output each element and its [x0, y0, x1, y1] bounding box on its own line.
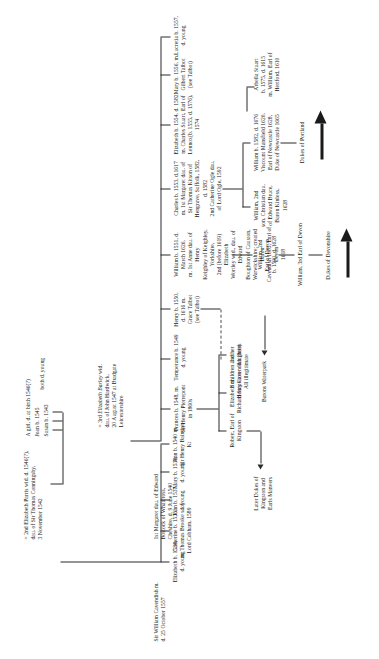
node-mary-1556: Mary b. 1556, m. Gilbert Talbot (see Tal…	[172, 51, 193, 97]
stem-william1551-down	[232, 254, 252, 255]
dashed-illegitimate-link	[220, 309, 221, 359]
stem-henry-down	[200, 308, 220, 309]
drop-mary-1538	[160, 471, 169, 472]
node-dukes-portland: Dukes of Portland	[298, 103, 305, 181]
node-susan-1543: Susan b. 1543	[42, 392, 49, 436]
gen1-bar-first	[160, 444, 161, 562]
stem-william1582-down	[280, 142, 296, 143]
drop-three-daughters	[218, 354, 226, 355]
node-dukes-devonshire: Dukes of Devonshire	[324, 203, 331, 307]
node-joan-1545: Joan b. 1545	[33, 392, 40, 436]
node-frances-1548: Frances b. 1548, m. Sir Henry Pierrepont…	[172, 379, 193, 437]
stem-dukes-portland-arrow	[320, 123, 323, 159]
drop-girl-1546	[52, 411, 62, 412]
stem-william2nd-down	[278, 254, 294, 255]
drop-john-1537	[160, 499, 169, 500]
drop-joan-1545	[52, 420, 62, 421]
root-trunk	[60, 561, 160, 562]
gen1-bar-second	[62, 412, 63, 484]
node-barons-waterpark: Barons Waterpark	[260, 353, 267, 409]
root-name: Sir William Cavendish m. d. 25 October 1…	[152, 545, 166, 641]
node-william-2nd-earl: William, 2nd Earl of Devon, b. 1590, d. …	[256, 227, 277, 281]
node-henry-1550: Henry b. 1550, d. 1616 m. Grace Talbot (…	[172, 285, 201, 333]
drop-henry-1550	[160, 308, 170, 309]
root-marriage-3: = 3rd Elizabeth Barley wid. dau. of John…	[96, 317, 125, 427]
drop-susan-1543	[52, 429, 62, 430]
node-william-1582: William b. 1582, d. 1676 Viscount Mansfi…	[252, 109, 281, 175]
marriage3-prefix: = 3rd	[96, 413, 102, 427]
family-tree-chart: Sir William Cavendish m. d. 25 October 1…	[0, 0, 379, 659]
drop-arbella	[246, 86, 254, 87]
node-arbella-stuart: Arbella Stuart b. 1575, d. 1615 m. Willi…	[252, 45, 281, 103]
node-william-3rd-earl: William, 3rd Earl of Devon	[296, 205, 303, 303]
brace-note-second-marriage: both d. young	[38, 333, 45, 389]
stem-robert-down	[246, 430, 260, 431]
drop-william-1582	[242, 142, 250, 143]
drop-temperance-1549	[160, 358, 170, 359]
drop-charles-2nd	[242, 206, 250, 207]
drop-catherine-1535	[160, 530, 169, 531]
node-eight-children: 8 children and Henry Cavendish (heir) Al…	[228, 339, 249, 403]
drop-elizabeth-1554	[160, 124, 170, 125]
stem-charles1553-down	[222, 188, 242, 189]
node-lucretia-1557: Lucretia b. 1557, d. young	[172, 13, 186, 57]
node-charles-1553: Charles b. 1553, d.1617 m. 1st Margaret …	[172, 159, 222, 217]
marriage3-italic: Elizabeth Barley	[96, 375, 102, 413]
node-later-dukes-kingston: Later Dukes of Kingston and Earls Manver…	[252, 467, 273, 519]
node-temperance-1549: Temperance b. 1549 d. young	[172, 329, 186, 385]
drop-elizabeth-1534	[160, 561, 169, 562]
drop-frances-1548	[160, 408, 170, 409]
drop-elizabeth-stapleton	[218, 392, 226, 393]
arrow-dukes-portland	[314, 110, 326, 123]
stem-william3rd-down	[308, 254, 322, 255]
link-arbella	[246, 87, 247, 111]
gen2-bar-charles1553	[242, 143, 243, 207]
drop-lucretia-1557	[160, 36, 170, 37]
node-girl-1546: A girl, d. at birth 1546(?)	[24, 356, 31, 436]
stem-frances-down	[196, 408, 218, 409]
drop-ann-1540	[160, 443, 169, 444]
node-elizabeth-1554: Elizabeth b. 1554, d. 1582 m. Charles St…	[172, 93, 201, 155]
drop-robert-kingston	[218, 430, 226, 431]
drop-mary-1556	[160, 74, 170, 75]
stem-dukes-devonshire-arrow	[346, 241, 349, 277]
node-charles-2nd: William, 2nd son. Christian dau. of Edwa…	[252, 177, 288, 233]
rotated-plate: Sir William Cavendish m. d. 25 October 1…	[0, 0, 379, 659]
drop-second-marriage	[50, 483, 62, 484]
drop-third-marriage	[130, 440, 160, 441]
drop-william-1551	[160, 254, 170, 255]
lead-barons-waterpark	[264, 315, 265, 349]
arrow-dukes-devonshire	[340, 228, 352, 241]
drop-charles-1553	[160, 188, 170, 189]
root-marriage-1: 1st Margaret dau. of Edward Bostock of W…	[152, 443, 173, 539]
gen1-bar-third	[160, 37, 161, 441]
lead-later-dukes-kingston	[260, 431, 261, 463]
